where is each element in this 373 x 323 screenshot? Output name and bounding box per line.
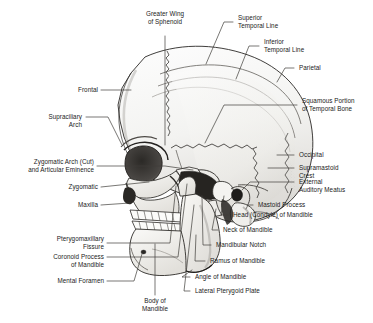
label-superior-temporal-line: Superior Temporal Line — [238, 14, 328, 29]
label-greater-wing-of-sphenoid: Greater Wing of Sphenoid — [122, 10, 208, 25]
label-supraciliary-arch: Supraciliary Arch — [22, 113, 82, 128]
label-lateral-pterygoid-plate: Lateral Pterygoid Plate — [195, 287, 315, 295]
label-mental-foramen: Mental Foramen — [24, 277, 104, 285]
label-mastoid-process: Mastoid Process — [258, 201, 346, 209]
head-condyle-of-mandible — [213, 181, 234, 201]
label-parietal: Parietal — [299, 64, 367, 72]
label-neck-of-mandible: Neck of Mandible — [223, 226, 333, 234]
label-head-condyle-of-mandible: Head (Condyle) of Mandible — [233, 211, 365, 219]
body-of-mandible — [130, 229, 186, 276]
label-ramus-of-mandible: Ramus of Mandible — [210, 257, 320, 265]
label-zygomatic: Zygomatic — [40, 183, 98, 191]
label-zygomatic-arch-cut: Zygomatic Arch (Cut) and Articular Emine… — [4, 158, 94, 173]
label-mandibular-notch: Mandibular Notch — [216, 241, 326, 249]
label-angle-of-mandible: Angle of Mandible — [195, 273, 305, 281]
skull-diagram-figure: Greater Wing of Sphenoid Superior Tempor… — [0, 0, 373, 323]
leader-supraciliary-arch — [86, 117, 122, 145]
external-auditory-meatus — [232, 189, 243, 201]
label-body-of-mandible: Body of Mandible — [125, 297, 185, 312]
label-coronoid-process-of-mandible: Coronoid Process of Mandible — [14, 253, 104, 268]
label-occipital: Occipital — [299, 151, 369, 159]
label-external-auditory-meatus: External Auditory Meatus — [299, 178, 371, 193]
orbit-socket — [125, 146, 162, 183]
label-supramastoid-crest: Supramastoid Crest — [299, 164, 369, 179]
mental-foramen — [141, 250, 146, 254]
label-inferior-temporal-line: Inferior Temporal Line — [264, 38, 350, 53]
label-pterygomaxillary-fissure: Pterygomaxillary Fissure — [14, 235, 104, 250]
leader-maxilla — [101, 203, 130, 205]
label-maxilla: Maxilla — [48, 201, 98, 209]
label-squamous-portion-of-temporal-bone: Squamous Portion of Temporal Bone — [302, 97, 372, 112]
label-frontal: Frontal — [40, 86, 98, 94]
